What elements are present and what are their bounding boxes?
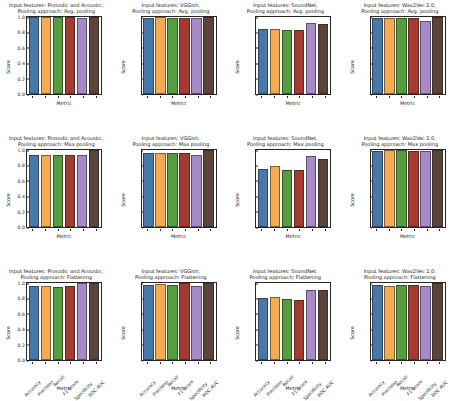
y-tick-label: 0.0: [247, 358, 257, 363]
plot-area: 0.00.20.40.60.81.0: [255, 149, 331, 228]
y-tick-label: 0.6: [361, 178, 371, 183]
bar-series: [371, 283, 445, 360]
x-tick-mark: [70, 362, 71, 364]
x-tick-mark: [147, 96, 148, 98]
x-tick-mark: [325, 96, 326, 98]
y-tick-label: 0.8: [247, 296, 257, 301]
bar-precision: [270, 297, 280, 360]
bar-series: [27, 17, 101, 94]
bar-roc-auc: [318, 290, 328, 360]
plot-area: 0.00.20.40.60.81.0: [141, 149, 217, 228]
x-tick-mark: [160, 229, 161, 231]
plot-area: 0.00.20.40.60.81.0: [370, 282, 446, 361]
x-tick-mark: [389, 96, 390, 98]
x-tick-mark: [172, 229, 173, 231]
y-tick-label: 0.4: [132, 194, 142, 199]
x-tick-mark: [287, 362, 288, 364]
bar-accuracy: [29, 286, 39, 360]
bar-roc-auc: [203, 150, 213, 227]
plot-area: 0.00.20.40.60.81.0: [26, 282, 102, 361]
x-tick-mark: [427, 96, 428, 98]
bar-accuracy: [258, 169, 268, 227]
x-tick-mark: [96, 362, 97, 364]
subplot-title: Input features: SoundNet, Pooling approa…: [229, 135, 342, 147]
y-tick-label: 0.6: [18, 45, 28, 50]
bar-f1-score: [65, 286, 75, 360]
y-tick-label: 0.8: [132, 30, 142, 35]
x-tick-mark: [427, 362, 428, 364]
x-tick-mark: [389, 229, 390, 231]
x-axis-label: Metric: [370, 100, 446, 106]
bar-roc-auc: [432, 283, 442, 360]
x-tick-mark: [389, 362, 390, 364]
y-tick-label: 0.8: [132, 163, 142, 168]
subplot-soundnet-avg-pooling: Input features: SoundNet, Pooling approa…: [229, 0, 344, 133]
x-tick-mark: [185, 96, 186, 98]
y-tick-label: 0.0: [361, 92, 371, 97]
plot-area: 0.00.20.40.60.81.0: [255, 282, 331, 361]
y-axis-label: Score: [349, 193, 355, 207]
y-tick-label: 1.0: [361, 148, 371, 153]
x-tick-mark: [172, 96, 173, 98]
plot-area: 0.00.20.40.60.81.0: [26, 16, 102, 95]
y-tick-label: 0.8: [247, 30, 257, 35]
y-tick-label: 0.4: [247, 61, 257, 66]
x-axis-label: Metric: [255, 233, 331, 239]
bar-recall: [53, 155, 63, 227]
y-tick-label: 0.2: [247, 342, 257, 347]
subplot-soundnet-max-pooling: Input features: SoundNet, Pooling approa…: [229, 133, 344, 266]
subplot-title: Input features: SoundNet, Pooling approa…: [229, 268, 342, 280]
x-tick-mark: [287, 229, 288, 231]
y-tick-label: 0.0: [247, 92, 257, 97]
y-axis-label: Score: [234, 193, 240, 207]
bar-specificity: [77, 18, 87, 94]
subplot-title: Input features: Prosodic and Acoustic, P…: [0, 135, 113, 147]
x-axis-label: Metric: [255, 100, 331, 106]
x-tick-mark: [427, 229, 428, 231]
x-tick-mark: [96, 229, 97, 231]
x-axis-label: Metric: [141, 100, 217, 106]
y-tick-label: 0.4: [361, 327, 371, 332]
y-axis-label: Score: [5, 60, 11, 74]
x-tick-mark: [58, 362, 59, 364]
plot-area: 0.00.20.40.60.81.0: [370, 16, 446, 95]
subplot-title: Input features: Wav2Vec 2.0, Pooling app…: [344, 268, 457, 280]
bar-precision: [270, 166, 280, 227]
x-tick-mark: [32, 229, 33, 231]
bar-f1-score: [294, 300, 304, 360]
x-tick-mark: [185, 362, 186, 364]
bar-specificity: [306, 156, 316, 227]
y-axis-label: Score: [349, 326, 355, 340]
bar-roc-auc: [89, 17, 99, 94]
x-tick-mark: [210, 96, 211, 98]
bar-series: [256, 283, 330, 360]
y-axis-label: Score: [349, 60, 355, 74]
y-tick-label: 1.0: [132, 148, 142, 153]
bar-f1-score: [408, 18, 418, 94]
x-tick-mark: [58, 96, 59, 98]
x-tick-mark: [45, 96, 46, 98]
bar-series: [142, 283, 216, 360]
x-axis-label: Metric: [26, 100, 102, 106]
y-tick-label: 0.4: [132, 61, 142, 66]
y-tick-label: 0.2: [132, 76, 142, 81]
bar-roc-auc: [89, 150, 99, 227]
y-tick-label: 0.0: [18, 358, 28, 363]
bar-precision: [155, 284, 165, 360]
y-tick-label: 0.8: [18, 296, 28, 301]
x-tick-mark: [401, 96, 402, 98]
subplot-soundnet-flattening: Input features: SoundNet, Pooling approa…: [229, 266, 344, 399]
y-tick-label: 0.6: [18, 178, 28, 183]
bar-roc-auc: [203, 283, 213, 360]
y-tick-label: 0.0: [18, 225, 28, 230]
x-tick-mark: [70, 229, 71, 231]
y-axis-label: Score: [120, 326, 126, 340]
x-tick-mark: [439, 229, 440, 231]
y-tick-label: 0.4: [132, 327, 142, 332]
bar-recall: [396, 150, 406, 227]
x-tick-mark: [210, 229, 211, 231]
x-tick-mark: [83, 229, 84, 231]
plot-area: 0.00.20.40.60.81.0: [26, 149, 102, 228]
bar-precision: [384, 286, 394, 360]
